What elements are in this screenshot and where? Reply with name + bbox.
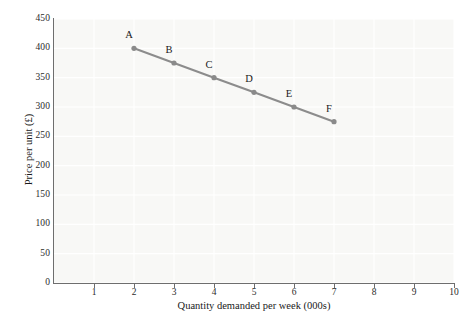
y-tick-label: 0: [4, 278, 50, 288]
x-tick-label: 5: [239, 287, 269, 297]
point-label-a: A: [119, 30, 139, 41]
x-tick-label: 7: [319, 287, 349, 297]
y-tick-label: 50: [4, 249, 50, 259]
data-point-marker: [291, 104, 296, 109]
point-label-e: E: [279, 89, 299, 100]
data-point-marker: [131, 46, 136, 51]
point-label-d: D: [239, 74, 259, 85]
x-tick-label: 1: [79, 287, 109, 297]
x-tick-label: 3: [159, 287, 189, 297]
y-tick-label: 400: [4, 43, 50, 53]
y-axis-line: [53, 18, 54, 284]
x-tick-label: 6: [279, 287, 309, 297]
point-label-f: F: [319, 104, 339, 115]
point-label-b: B: [159, 45, 179, 56]
y-axis-title: Price per unit (£): [23, 60, 34, 240]
x-tick-label: 2: [119, 287, 149, 297]
x-axis-title: Quantity demanded per week (000s): [54, 300, 454, 311]
x-tick-label: 9: [399, 287, 429, 297]
data-point-marker: [331, 119, 336, 124]
point-label-c: C: [199, 60, 219, 71]
data-point-marker: [211, 75, 216, 80]
x-tick-label: 8: [359, 287, 389, 297]
plot-area: [54, 19, 454, 283]
data-point-marker: [251, 90, 256, 95]
demand-series: [54, 19, 454, 283]
demand-curve-chart: 050100150200250300350400450 12345678910 …: [0, 0, 463, 326]
y-tick-label: 450: [4, 14, 50, 24]
x-tick-label: 4: [199, 287, 229, 297]
data-point-marker: [171, 60, 176, 65]
x-tick-label: 10: [439, 287, 463, 297]
